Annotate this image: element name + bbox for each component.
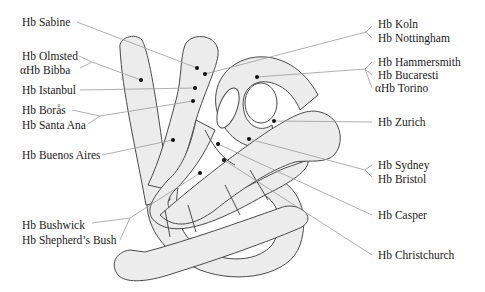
- label-santa-ana: Hb Santa Ana: [22, 119, 86, 131]
- site-dot-olmsted-bibba: [139, 78, 143, 82]
- label-sabine: Hb Sabine: [22, 16, 70, 28]
- site-dot-christchurch: [222, 158, 226, 162]
- label-nottingham: Hb Nottingham: [378, 32, 450, 45]
- site-dot-hammersmith: [255, 75, 259, 79]
- label-bibba: αHb Bibba: [20, 64, 70, 76]
- site-dot-bushwick: [198, 171, 202, 175]
- site-dot-boras-santa-ana: [191, 99, 195, 103]
- site-dot-istanbul: [193, 86, 197, 90]
- label-hammersmith: Hb Hammersmith: [378, 56, 461, 68]
- label-koln: Hb Koln: [378, 18, 418, 30]
- label-boras: Hb Borås: [22, 104, 66, 116]
- site-dot-koln-nottingham: [203, 72, 207, 76]
- labels-left: Hb Sabine Hb Olmsted αHb Bibba Hb Istanb…: [20, 16, 117, 247]
- label-buenos-aires: Hb Buenos Aires: [22, 149, 101, 161]
- label-olmsted: Hb Olmsted: [22, 50, 78, 62]
- label-istanbul: Hb Istanbul: [22, 84, 76, 96]
- label-shepherds-bush: Hb Shepherd’s Bush: [22, 234, 117, 247]
- labels-right: Hb Koln Hb Nottingham Hb Hammersmith Hb …: [375, 18, 461, 261]
- label-zurich: Hb Zurich: [378, 116, 426, 128]
- label-christchurch: Hb Christchurch: [378, 249, 455, 261]
- site-dot-casper: [216, 142, 220, 146]
- site-dot-sydney-bristol: [247, 137, 251, 141]
- site-dot-sabine: [195, 66, 199, 70]
- label-casper: Hb Casper: [378, 209, 427, 222]
- site-dot-zurich: [272, 119, 276, 123]
- label-bushwick: Hb Bushwick: [22, 219, 85, 231]
- label-bristol: Hb Bristol: [378, 173, 426, 185]
- hemoglobin-ribbon-diagram: Hb Sabine Hb Olmsted αHb Bibba Hb Istanb…: [0, 0, 485, 292]
- label-torino: αHb Torino: [375, 82, 428, 94]
- label-sydney: Hb Sydney: [378, 159, 430, 172]
- label-bucaresti: Hb Bucaresti: [378, 69, 438, 81]
- site-dot-buenos-aires: [171, 138, 175, 142]
- ribbon-hole-inner: [245, 83, 277, 123]
